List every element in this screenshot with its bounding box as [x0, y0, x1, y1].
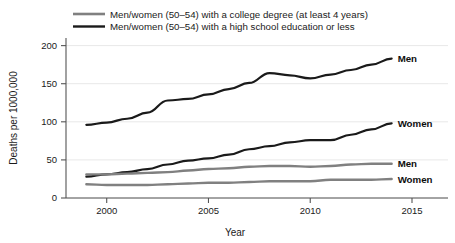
- series-end-label-college-degree-women: Women: [398, 174, 433, 185]
- y-tick-label-100: 100: [41, 116, 57, 127]
- x-tick-label-2005: 2005: [198, 205, 219, 216]
- series-end-labels: MenWomenMenWomen: [398, 53, 433, 184]
- x-axis-ticks: 2000200520102015: [96, 198, 422, 216]
- x-tick-label-2010: 2010: [300, 205, 321, 216]
- line-chart: 050100150200 2000200520102015 Deaths per…: [0, 0, 455, 243]
- chart-container: 050100150200 2000200520102015 Deaths per…: [0, 0, 455, 243]
- x-axis-title: Year: [225, 227, 246, 238]
- y-axis-title: Deaths per 1000,000: [8, 71, 19, 165]
- series-end-label-college-degree-men: Men: [398, 158, 417, 169]
- series-line-college-degree-women: [86, 179, 391, 185]
- x-tick-label-2015: 2015: [401, 205, 422, 216]
- series-line-college-degree-men: [86, 164, 391, 175]
- legend-label-0: Men/women (50–54) with a college degree …: [110, 9, 368, 20]
- y-tick-label-150: 150: [41, 78, 57, 89]
- series-line-high-school-or-less-men: [86, 59, 391, 125]
- legend-label-1: Men/women (50–54) with a high school edu…: [110, 21, 355, 32]
- x-tick-label-2000: 2000: [96, 205, 117, 216]
- y-tick-label-0: 0: [52, 192, 57, 203]
- legend: Men/women (50–54) with a college degree …: [73, 9, 368, 32]
- y-tick-label-50: 50: [46, 154, 57, 165]
- gridlines: [66, 46, 448, 198]
- y-axis-ticks: 050100150200: [41, 40, 66, 203]
- y-tick-label-200: 200: [41, 40, 57, 51]
- series-end-label-high-school-or-less-women: Women: [398, 118, 433, 129]
- series-end-label-high-school-or-less-men: Men: [398, 53, 417, 64]
